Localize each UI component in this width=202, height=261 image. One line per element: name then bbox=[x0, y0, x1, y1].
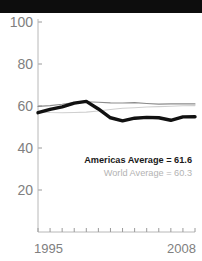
y-axis-tick-label: 40 bbox=[17, 140, 33, 156]
legend-world-average: World Average = 60.3 bbox=[104, 168, 192, 178]
x-axis-label-start: 1995 bbox=[34, 241, 63, 256]
y-axis-tick-labels: 20406080100 bbox=[10, 14, 34, 198]
series-lines bbox=[38, 101, 195, 121]
y-axis-tick-label: 60 bbox=[17, 98, 33, 114]
chart-figure: 20406080100 1995 2008 Americas Average =… bbox=[0, 0, 202, 261]
x-axis-label-end: 2008 bbox=[167, 241, 196, 256]
y-axis-tick-label: 20 bbox=[17, 182, 33, 198]
x-axis-ticks bbox=[38, 228, 195, 232]
y-axis-tick-label: 100 bbox=[10, 14, 34, 30]
y-axis-tick-label: 80 bbox=[17, 56, 33, 72]
legend-americas-average: Americas Average = 61.6 bbox=[84, 155, 192, 165]
line-chart-plot: 20406080100 1995 2008 Americas Average =… bbox=[0, 13, 202, 261]
title-band bbox=[0, 0, 202, 13]
